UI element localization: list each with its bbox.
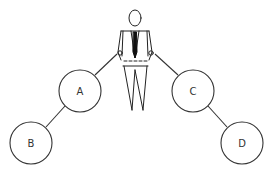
diagram-canvas: A B C D bbox=[0, 0, 273, 174]
hierarchy-diagram: A B C D bbox=[0, 0, 273, 174]
edge-figure-to-c bbox=[155, 54, 178, 75]
edge-a-to-b bbox=[46, 106, 65, 127]
edge-c-to-d bbox=[208, 106, 227, 127]
node-a-label: A bbox=[77, 86, 84, 97]
node-d-label: D bbox=[238, 138, 246, 149]
node-c-label: C bbox=[190, 86, 197, 97]
edge-figure-to-a bbox=[95, 54, 117, 75]
businessman-figure-icon bbox=[118, 10, 153, 110]
node-b-label: B bbox=[28, 138, 35, 149]
